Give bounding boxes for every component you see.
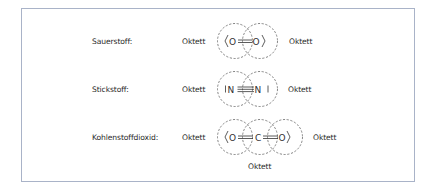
atom-N: N (255, 85, 262, 95)
atom-O: O (229, 133, 236, 143)
atom-O: O (229, 37, 236, 47)
lewis-structures: O O N N O C O (0, 0, 436, 192)
atom-O: O (279, 133, 286, 143)
atom-O: O (253, 37, 260, 47)
atom-C: C (255, 133, 261, 143)
atom-N: N (228, 85, 235, 95)
